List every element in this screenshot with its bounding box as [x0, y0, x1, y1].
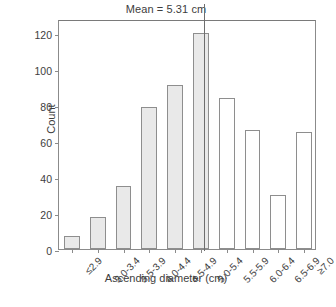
y-axis-tick-mark [55, 215, 59, 216]
x-axis-tick-mark [72, 249, 73, 253]
histogram-bar [219, 98, 235, 249]
x-axis-tick-mark [124, 249, 125, 253]
x-axis-tick-mark [98, 249, 99, 253]
plot-inner: 020406080100120≤2.93.0-3.43.5-3.94.0-4.4… [59, 21, 315, 249]
y-axis-tick-mark [55, 179, 59, 180]
histogram-bar [64, 236, 80, 249]
histogram-bar [193, 33, 209, 249]
histogram-bar [296, 132, 312, 249]
histogram-bar [141, 107, 157, 249]
histogram-bar [90, 217, 106, 249]
plot-area: 020406080100120≤2.93.0-3.43.5-3.94.0-4.4… [58, 20, 316, 250]
histogram-bar [167, 85, 183, 249]
y-axis-tick-mark [55, 71, 59, 72]
x-axis-tick-mark [227, 249, 228, 253]
x-axis-tick-mark [149, 249, 150, 253]
mean-line [204, 4, 205, 251]
x-axis-tick-mark [278, 249, 279, 253]
x-axis-tick-mark [253, 249, 254, 253]
chart-title: Mean = 5.31 cm [0, 3, 332, 15]
y-axis-tick-mark [55, 251, 59, 252]
x-axis-tick-mark [304, 249, 305, 253]
histogram-bar [116, 186, 132, 249]
x-axis-label: Ascending diameter (cm) [0, 272, 332, 284]
histogram-bar [270, 195, 286, 249]
y-axis-tick-mark [55, 35, 59, 36]
x-axis-tick-mark [201, 249, 202, 253]
x-axis-tick-mark [175, 249, 176, 253]
histogram-bar [245, 130, 261, 249]
y-axis-label: Count [45, 89, 57, 149]
